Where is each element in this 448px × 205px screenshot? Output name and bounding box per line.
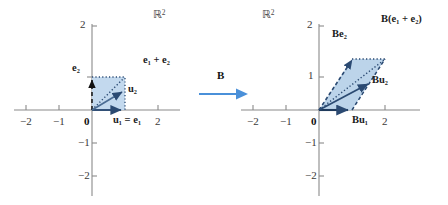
left-label-e2: e₂ [72,63,80,74]
left-label-u1-eq-e1: u₁ = e₁ [113,115,141,126]
left-origin-label: 0 [84,116,90,127]
left-label-u2: u₂ [128,84,137,95]
right-label-Be2: Be₂ [332,29,347,40]
left-space-label: ℝ2 [153,9,165,20]
right-xtick--1: −1 [280,116,292,127]
left-xtick-2: 2 [155,116,161,127]
linear-transformation-figure: ℝ2 −2 −1 0 2 2 −1 −2 e₂ e₁ + e₂ u₂ u₁ = … [0,0,448,205]
left-ytick-2: 2 [80,19,86,30]
right-xtick-2: 2 [382,116,388,127]
right-xtick--2: −2 [247,116,259,127]
left-ytick--2: −2 [78,170,90,181]
right-ytick--1: −1 [305,137,317,148]
right-ytick--2: −2 [305,170,317,181]
right-space-label: ℝ2 [262,9,274,20]
right-ytick-1: 1 [308,70,314,81]
left-xtick--1: −1 [53,116,65,127]
right-label-Bu1: Bu₁ [352,115,368,126]
right-ytick-2: 2 [307,19,313,30]
left-panel-plot [0,0,224,205]
right-label-B-e1-plus-e2: B(e₁ + e₂) [381,14,422,25]
left-label-e1-plus-e2: e₁ + e₂ [143,55,170,66]
left-ytick--1: −1 [78,137,90,148]
right-label-Bu2: Bu₂ [372,75,388,86]
left-xtick--2: −2 [20,116,32,127]
right-origin-label: 0 [311,116,317,127]
